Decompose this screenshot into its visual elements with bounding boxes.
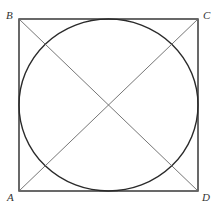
vertex-label-a: A [6, 191, 14, 203]
vertex-label-d: D [201, 191, 210, 203]
vertex-label-b: B [6, 9, 13, 21]
vertex-label-c: C [203, 9, 211, 21]
geometry-diagram: B C A D [0, 0, 217, 205]
